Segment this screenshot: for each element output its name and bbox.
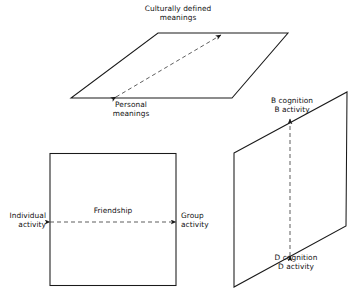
label-individual-activity: Individual activity (2, 211, 46, 229)
top-plane-axis-arrow (116, 35, 221, 97)
label-line-1: Personal (91, 100, 171, 109)
label-d-cognition-d-activity: D cognition D activity (259, 253, 333, 271)
label-group-activity: Group activity (181, 211, 229, 229)
label-line-2: activity (181, 220, 229, 229)
label-line-2: D activity (259, 262, 333, 271)
label-line-2: activity (2, 220, 46, 229)
label-line-1: Culturally defined (130, 4, 226, 13)
label-line-2: meanings (130, 13, 226, 22)
label-culturally-defined-meanings: Culturally defined meanings (130, 4, 226, 22)
label-line-2: meanings (91, 109, 171, 118)
label-line-1: B cognition (255, 96, 329, 105)
label-friendship: Friendship (73, 206, 153, 215)
top-plane-outline (71, 33, 288, 98)
label-line-1: Individual (2, 211, 46, 220)
label-line-2: B activity (255, 105, 329, 114)
label-line-1: Friendship (73, 206, 153, 215)
label-line-1: Group (181, 211, 229, 220)
label-line-1: D cognition (259, 253, 333, 262)
friendship-square-outline (50, 154, 176, 286)
diagram-canvas: Culturally defined meanings Personal mea… (0, 0, 360, 297)
label-personal-meanings: Personal meanings (91, 100, 171, 118)
label-b-cognition-b-activity: B cognition B activity (255, 96, 329, 114)
